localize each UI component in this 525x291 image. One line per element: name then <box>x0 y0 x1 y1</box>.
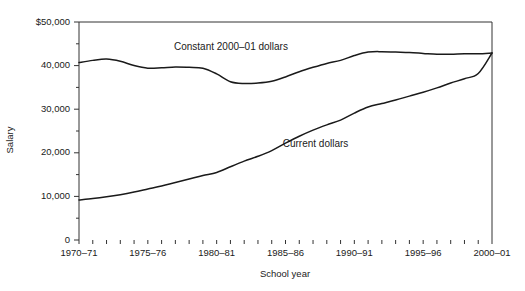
series-label-1: Constant 2000–01 dollars <box>174 41 288 52</box>
y-tick-label: 40,000 <box>41 59 70 70</box>
series-label-2: Current dollars <box>283 138 349 149</box>
x-tick-label: 1995–96 <box>405 247 442 258</box>
y-tick-label: 0 <box>65 234 70 245</box>
salary-line-chart: $50,00040,00030,00020,00010,0000 1970–71… <box>0 0 525 291</box>
x-tick-label: 2000–01 <box>474 247 511 258</box>
y-tick-label: 10,000 <box>41 190 70 201</box>
x-tick-label: 1985–86 <box>267 247 304 258</box>
chart-canvas: $50,00040,00030,00020,00010,0000 1970–71… <box>0 0 525 291</box>
x-tick-label: 1980–81 <box>198 247 235 258</box>
x-tick-label: 1970–71 <box>61 247 98 258</box>
y-tick-label: 30,000 <box>41 103 70 114</box>
x-tick-label: 1975–76 <box>129 247 166 258</box>
x-axis-title: School year <box>260 268 310 279</box>
y-tick-label: 20,000 <box>41 146 70 157</box>
y-axis-title: Salary <box>4 126 15 153</box>
x-tick-label: 1990–91 <box>336 247 373 258</box>
y-tick-label: $50,000 <box>36 16 70 27</box>
